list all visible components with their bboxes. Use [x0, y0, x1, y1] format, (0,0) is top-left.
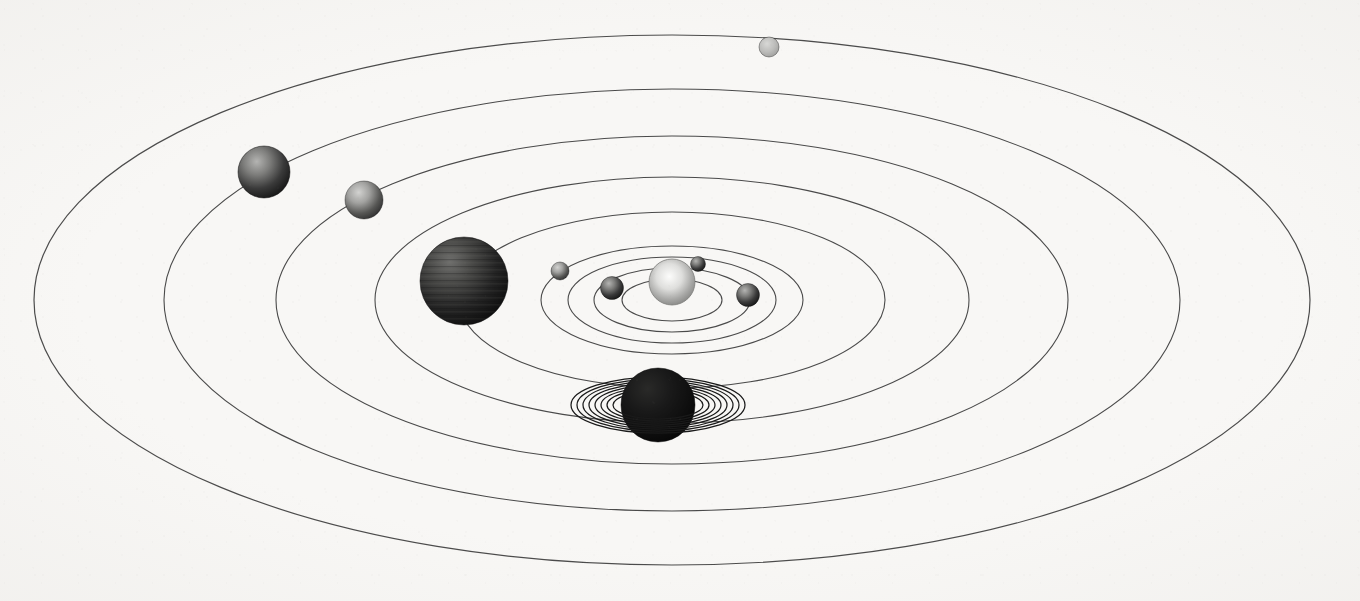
- solar-system-canvas: [0, 0, 1360, 601]
- planets-group: [238, 37, 779, 442]
- solar-system-diagram: [0, 0, 1360, 601]
- jupiter-cloud-bands: [420, 237, 508, 325]
- planet-mars: [551, 262, 569, 280]
- planet-body-neptune: [345, 181, 383, 219]
- planet-jupiter: [420, 237, 508, 325]
- planet-body-earth: [601, 277, 624, 300]
- planet-uranus: [238, 146, 290, 198]
- planet-mercury: [691, 257, 706, 272]
- planet-sun: [649, 259, 695, 305]
- planet-body-venus: [737, 284, 760, 307]
- planet-pluto: [759, 37, 779, 57]
- planet-body-uranus: [238, 146, 290, 198]
- planet-body-mars: [551, 262, 569, 280]
- planet-body-pluto: [759, 37, 779, 57]
- planet-venus: [737, 284, 760, 307]
- planet-earth: [601, 277, 624, 300]
- planet-neptune: [345, 181, 383, 219]
- planet-body-mercury: [691, 257, 706, 272]
